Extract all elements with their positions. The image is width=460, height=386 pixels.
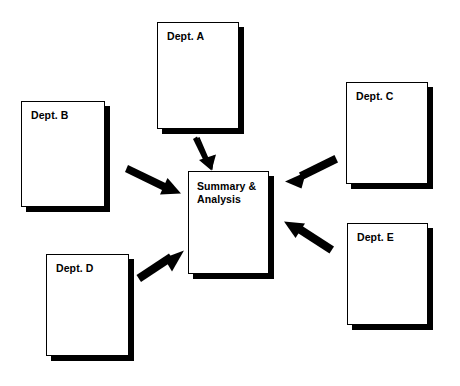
node-dept-b[interactable]: Dept. B [21, 101, 105, 207]
node-dept-c[interactable]: Dept. C [346, 82, 428, 184]
node-dept-d[interactable]: Dept. D [46, 254, 129, 356]
node-dept-a[interactable]: Dept. A [157, 22, 239, 129]
node-label-dept-a: Dept. A [167, 30, 204, 43]
node-label-dept-e: Dept. E [357, 231, 394, 244]
node-summary-analysis[interactable]: Summary & Analysis [188, 171, 269, 274]
node-label-dept-b: Dept. B [31, 109, 68, 122]
node-dept-e[interactable]: Dept. E [347, 223, 428, 325]
node-label-dept-d: Dept. D [56, 262, 93, 275]
arrow-shape-e [284, 222, 334, 254]
diagram-canvas: Dept. A Dept. B Dept. C Dept. D Dept. E … [0, 0, 460, 386]
node-label-summary-analysis: Summary & Analysis [197, 180, 256, 206]
node-label-dept-c: Dept. C [356, 90, 393, 103]
